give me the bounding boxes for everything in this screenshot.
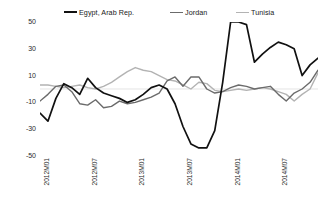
x-tick-label: 2014M07 — [281, 158, 288, 186]
plot-area — [40, 22, 318, 156]
legend-label-egypt: Egypt, Arab Rep. — [79, 8, 134, 17]
x-tick-label: 2012M07 — [91, 158, 98, 186]
y-tick-label: -30 — [26, 125, 36, 133]
chart-legend: Egypt, Arab Rep. Jordan Tunisia — [0, 4, 326, 20]
legend-item-egypt[interactable]: Egypt, Arab Rep. — [64, 4, 134, 20]
series-line-tunisia — [40, 68, 318, 102]
y-tick-label: 50 — [28, 18, 36, 26]
plot-svg — [40, 22, 318, 156]
y-tick-label: -10 — [26, 98, 36, 106]
legend-item-tunisia[interactable]: Tunisia — [236, 4, 274, 20]
x-axis-labels: 2012M012012M072013M012013M072014M012014M… — [40, 158, 318, 200]
line-chart: Egypt, Arab Rep. Jordan Tunisia 503010-1… — [0, 0, 326, 200]
y-tick-label: 30 — [28, 45, 36, 53]
legend-swatch-tunisia — [236, 12, 249, 13]
legend-label-tunisia: Tunisia — [251, 8, 274, 17]
legend-swatch-egypt — [64, 11, 77, 13]
legend-label-jordan: Jordan — [185, 8, 207, 17]
x-tick-label: 2013M07 — [186, 158, 193, 186]
y-tick-label: -50 — [26, 152, 36, 160]
legend-item-jordan[interactable]: Jordan — [170, 4, 207, 20]
y-tick-label: 10 — [28, 72, 36, 80]
x-tick-label: 2013M01 — [138, 158, 145, 186]
x-tick-label: 2014M01 — [234, 158, 241, 186]
x-tick-label: 2012M01 — [43, 158, 50, 186]
legend-swatch-jordan — [170, 12, 183, 13]
y-axis-labels: 503010-10-30-50 — [0, 22, 36, 156]
